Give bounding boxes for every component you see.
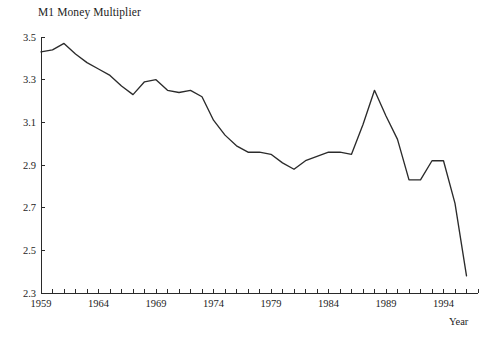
data-line-m1-money-multiplier (41, 43, 467, 276)
x-axis-tick-label: 1989 (376, 298, 397, 309)
chart-container: M1 Money Multiplier 3.53.33.12.92.72.52.… (0, 0, 503, 337)
x-axis-tick-label: 1959 (31, 298, 52, 309)
data-series-group (41, 43, 467, 276)
x-axis-tick-label: 1979 (261, 298, 282, 309)
y-axis-tick-label: 3.1 (23, 117, 36, 128)
line-chart-plot: 3.53.33.12.92.72.52.3 195919641969197419… (0, 0, 503, 337)
x-axis-tick-label: 1974 (203, 298, 225, 309)
y-axis-tick-label: 2.7 (23, 202, 36, 213)
x-axis: 19591964196919741979198419891994 (31, 289, 479, 310)
x-axis-tick-label: 1994 (433, 298, 455, 309)
y-axis-tick-label: 3.5 (23, 32, 36, 43)
y-axis-tick-label: 3.3 (23, 74, 36, 85)
y-axis: 3.53.33.12.92.72.52.3 (23, 32, 45, 299)
x-axis-tick-label: 1964 (88, 298, 110, 309)
x-axis-tick-label: 1969 (146, 298, 167, 309)
x-axis-label: Year (449, 316, 468, 327)
x-axis-tick-label: 1984 (318, 298, 340, 309)
y-axis-tick-label: 2.5 (23, 245, 36, 256)
y-axis-tick-label: 2.9 (23, 160, 36, 171)
y-axis-tick-label: 2.3 (23, 288, 36, 299)
